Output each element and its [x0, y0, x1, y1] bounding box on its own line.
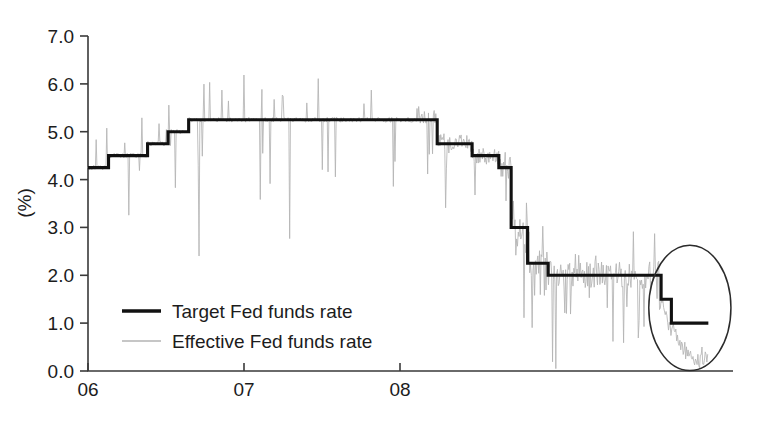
y-tick-label-1: 1.0: [48, 313, 74, 334]
series-target-fed-funds-rate: [88, 120, 708, 323]
y-tick-label-7: 7.0: [48, 26, 74, 47]
y-tick-label-4: 4.0: [48, 170, 74, 191]
axes-group: 7.0 6.0 5.0 4.0 3.0 2.0 1.0 0.0 (%) 06 0…: [14, 26, 733, 400]
y-tick-label-3: 3.0: [48, 217, 74, 238]
y-tick-label-2: 2.0: [48, 265, 74, 286]
fed-funds-rate-chart: 7.0 6.0 5.0 4.0 3.0 2.0 1.0 0.0 (%) 06 0…: [0, 0, 759, 423]
y-tick-label-5: 5.0: [48, 122, 74, 143]
legend-label-target: Target Fed funds rate: [172, 301, 353, 322]
y-axis-ticks: [80, 36, 88, 371]
x-axis-ticks: [88, 363, 400, 371]
x-tick-label-08: 08: [389, 379, 410, 400]
target-rate-step-line: [88, 120, 708, 323]
chart-legend: Target Fed funds rate Effective Fed fund…: [122, 301, 372, 352]
x-tick-label-07: 07: [233, 379, 254, 400]
legend-label-effective: Effective Fed funds rate: [172, 331, 372, 352]
y-axis-title: (%): [14, 188, 35, 218]
chart-figure: 7.0 6.0 5.0 4.0 3.0 2.0 1.0 0.0 (%) 06 0…: [0, 0, 759, 423]
y-tick-label-6: 6.0: [48, 74, 74, 95]
y-axis-tick-labels: 7.0 6.0 5.0 4.0 3.0 2.0 1.0 0.0: [48, 26, 74, 382]
x-axis-tick-labels: 06 07 08: [77, 379, 410, 400]
annotation-group: [649, 245, 731, 370]
final-rate-cuts-highlight-ellipse: [649, 245, 731, 370]
y-tick-label-0: 0.0: [48, 361, 74, 382]
x-tick-label-06: 06: [77, 379, 98, 400]
